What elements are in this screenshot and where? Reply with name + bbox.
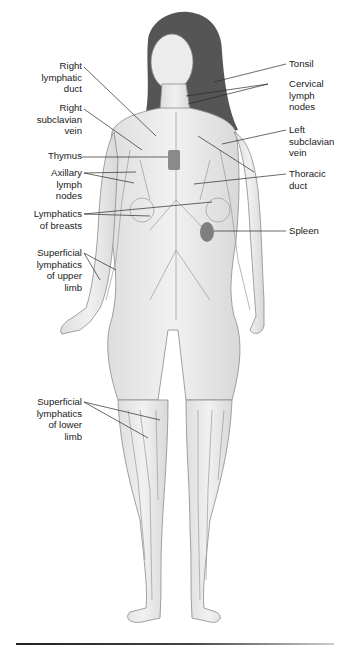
label-line: Thymus xyxy=(20,150,82,162)
label-line: Cervical xyxy=(289,78,349,90)
label-superficial-lymphatics-lower-limb: Superficial lymphatics of lower limb xyxy=(14,396,82,442)
thymus-organ xyxy=(168,150,180,170)
label-line: nodes xyxy=(20,190,82,202)
label-line: Thoracic xyxy=(289,168,349,180)
label-line: Spleen xyxy=(289,225,349,237)
label-line: lymph xyxy=(20,179,82,191)
label-line: Tonsil xyxy=(289,58,349,70)
label-line: duct xyxy=(289,180,349,192)
label-superficial-lymphatics-upper-limb: Superficial lymphatics of upper limb xyxy=(14,247,82,293)
label-line: Lymphatics xyxy=(14,208,82,220)
label-line: subclavian xyxy=(289,136,349,148)
label-line: subclavian xyxy=(20,114,82,126)
label-line: Left xyxy=(289,124,349,136)
label-line: Superficial xyxy=(14,396,82,408)
label-line: Right xyxy=(20,60,82,72)
label-line: of breasts xyxy=(14,220,82,232)
label-line: vein xyxy=(289,147,349,159)
label-cervical-lymph-nodes: Cervical lymph nodes xyxy=(289,78,349,113)
label-right-subclavian-vein: Right subclavian vein xyxy=(20,102,82,137)
spleen-organ xyxy=(200,222,214,242)
footer-rule xyxy=(16,643,334,645)
label-left-subclavian-vein: Left subclavian vein xyxy=(289,124,349,159)
label-line: Superficial xyxy=(14,247,82,259)
label-line: lymphatic xyxy=(20,72,82,84)
label-line: of lower xyxy=(14,419,82,431)
label-line: lymphatics xyxy=(14,408,82,420)
label-line: limb xyxy=(14,282,82,294)
label-line: duct xyxy=(20,83,82,95)
label-line: Axillary xyxy=(20,167,82,179)
label-line: limb xyxy=(14,431,82,443)
label-tonsil: Tonsil xyxy=(289,58,349,70)
label-spleen: Spleen xyxy=(289,225,349,237)
label-line: vein xyxy=(20,125,82,137)
label-lymphatics-of-breasts: Lymphatics of breasts xyxy=(14,208,82,231)
label-thymus: Thymus xyxy=(20,150,82,162)
label-line: Right xyxy=(20,102,82,114)
label-line: nodes xyxy=(289,101,349,113)
label-thoracic-duct: Thoracic duct xyxy=(289,168,349,191)
label-right-lymphatic-duct: Right lymphatic duct xyxy=(20,60,82,95)
label-line: lymph xyxy=(289,90,349,102)
label-line: lymphatics xyxy=(14,259,82,271)
label-line: of upper xyxy=(14,270,82,282)
label-axillary-lymph-nodes: Axillary lymph nodes xyxy=(20,167,82,202)
